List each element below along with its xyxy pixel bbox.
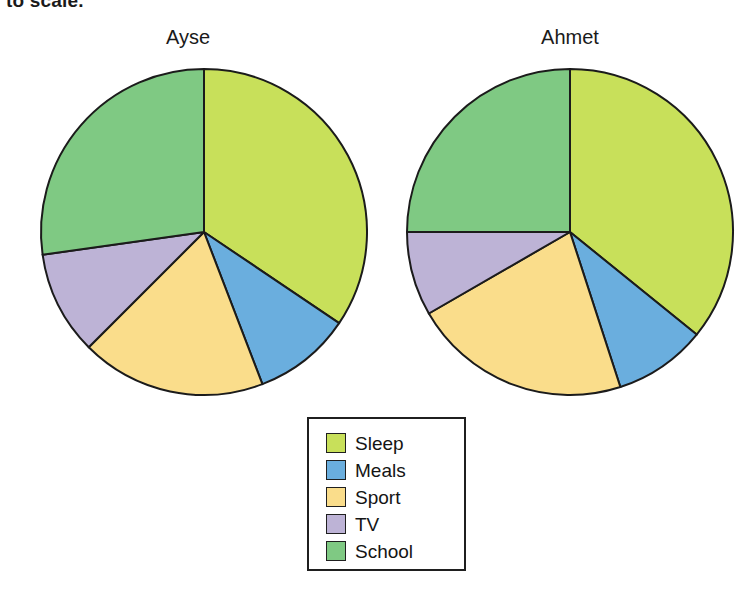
pie-slices-ahmet <box>407 69 733 395</box>
legend-item-school: School <box>326 538 413 564</box>
pie-slices-ayse <box>41 69 367 395</box>
chart-title-ayse: Ayse <box>88 26 288 49</box>
legend-label: School <box>355 542 413 561</box>
legend-label: Meals <box>355 461 406 480</box>
legend-item-sport: Sport <box>326 484 413 510</box>
legend: SleepMealsSportTVSchool <box>307 417 466 571</box>
pie-chart-ayse <box>20 64 368 408</box>
chart-title-ahmet: Ahmet <box>470 26 670 49</box>
legend-swatch-sleep <box>326 433 346 453</box>
legend-label: Sleep <box>355 434 404 453</box>
legend-swatch-meals <box>326 460 346 480</box>
pie-slice-school <box>407 69 570 232</box>
legend-label: Sport <box>355 488 400 507</box>
legend-swatch-school <box>326 541 346 561</box>
legend-item-meals: Meals <box>326 457 413 483</box>
pie-svg-ayse <box>20 64 368 404</box>
legend-swatch-sport <box>326 487 346 507</box>
legend-label: TV <box>355 515 379 534</box>
legend-item-tv: TV <box>326 511 413 537</box>
pie-svg-ahmet <box>402 64 749 404</box>
legend-item-sleep: Sleep <box>326 430 413 456</box>
pie-chart-figure: to scale. Ayse Ahmet SleepMealsSportTVSc… <box>0 0 749 590</box>
cut-off-caption-text: to scale. <box>6 0 84 12</box>
pie-slice-school <box>41 69 204 255</box>
pie-chart-ahmet <box>402 64 749 408</box>
legend-swatch-tv <box>326 514 346 534</box>
legend-list: SleepMealsSportTVSchool <box>326 430 413 565</box>
